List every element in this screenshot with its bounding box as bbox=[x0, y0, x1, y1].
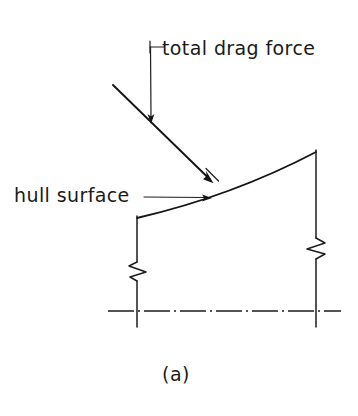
hull-drag-force-diagram: total drag force hull surface bbox=[0, 0, 358, 416]
left-station-break-symbol-icon bbox=[129, 262, 146, 281]
drag-force-leader-vertical bbox=[151, 47, 152, 118]
figure-caption: (a) bbox=[162, 363, 190, 385]
total-drag-force-label: total drag force bbox=[162, 37, 315, 59]
hull-surface-leader-line bbox=[144, 197, 206, 198]
right-station-break-symbol-icon bbox=[307, 238, 325, 259]
hull-surface-curve bbox=[137, 152, 316, 218]
drag-force-vector-arrowhead-icon bbox=[203, 171, 214, 183]
right-station-line bbox=[307, 150, 325, 327]
figure-container: total drag force hull surface bbox=[0, 0, 358, 416]
hull-surface-label: hull surface bbox=[14, 184, 130, 206]
total-drag-force-vector bbox=[113, 85, 219, 183]
drag-force-vector-shaft bbox=[113, 85, 210, 179]
